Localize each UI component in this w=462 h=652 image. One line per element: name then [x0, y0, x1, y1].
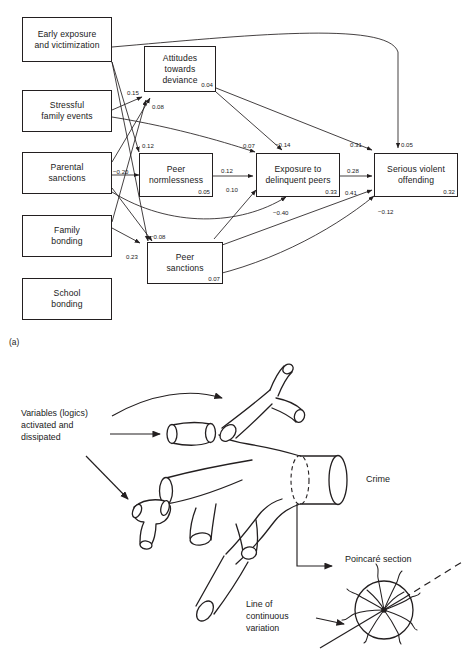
node-serious-violent-offending[interactable]: Serious violentoffending 0.32: [374, 153, 458, 197]
branch-upper-fork: [217, 362, 306, 444]
coef-neg-0-12: −0.12: [378, 208, 393, 215]
annotation-line-of-continuous-variation: Line ofcontinuousvariation: [246, 598, 289, 635]
coef-0-12-mid: 0.12: [221, 167, 233, 174]
annotation-variables: Variables (logics)activated anddissipate…: [21, 407, 88, 444]
detached-tube-upper: [167, 423, 216, 446]
node-label: Parentalsanctions: [46, 162, 87, 184]
coef-0-15: 0.15: [127, 89, 139, 96]
coef-0-07: 0.07: [243, 142, 255, 149]
node-early-exposure[interactable]: Early exposureand victimization: [22, 17, 112, 62]
node-label: Stressfulfamily events: [39, 100, 94, 122]
node-label: Early exposureand victimization: [32, 29, 101, 51]
coef-0-31: 0.31: [350, 141, 362, 148]
node-r2: 0.32: [443, 188, 455, 196]
node-label: Schoolbonding: [49, 288, 84, 310]
node-stressful-family[interactable]: Stressfulfamily events: [22, 90, 112, 132]
annotation-crime: Crime: [366, 473, 390, 485]
node-peer-sanctions[interactable]: Peersanctions 0.07: [147, 242, 223, 284]
branch-mid-stub: [189, 504, 216, 546]
node-r2: 0.07: [208, 275, 220, 283]
coef-neg-0-20: −0.20: [113, 168, 128, 175]
figure-page: Early exposureand victimization Stressfu…: [0, 0, 462, 652]
node-parental-sanctions[interactable]: Parentalsanctions: [22, 152, 112, 194]
path-model-panel: Early exposureand victimization Stressfu…: [0, 0, 462, 360]
coef-neg-0-08: −0.08: [150, 233, 165, 240]
node-school-bonding[interactable]: Schoolbonding: [22, 278, 112, 320]
coef-neg-0-14: −0.14: [275, 141, 290, 148]
node-label: Attitudestowardsdeviance: [160, 53, 199, 86]
coef-0-10: 0.10: [226, 186, 238, 193]
coef-0-23: 0.23: [126, 253, 138, 260]
node-label: Exposure todelinquent peers: [263, 164, 332, 186]
node-r2: 0.33: [325, 188, 337, 196]
node-label: Serious violentoffending: [385, 164, 447, 186]
coef-0-05: 0.05: [401, 141, 413, 148]
node-r2: 0.05: [198, 188, 210, 196]
coef-0-12-left: 0.12: [142, 142, 154, 149]
chaos-diagram-panel: Variables (logics)activated anddissipate…: [0, 352, 462, 652]
node-attitudes-deviance[interactable]: Attitudestowardsdeviance 0.04: [144, 46, 216, 92]
node-label: Familybonding: [49, 225, 84, 247]
detached-tube-lower: [130, 500, 170, 550]
coef-neg-0-40: −0.40: [273, 209, 288, 216]
node-label: Peersanctions: [164, 252, 205, 274]
node-label: Peernormlessness: [147, 164, 205, 186]
node-family-bonding[interactable]: Familybonding: [22, 215, 112, 257]
chaos-illustration: [0, 352, 462, 652]
branch-bottom-long: [193, 556, 248, 624]
node-exposure-delinquent-peers[interactable]: Exposure todelinquent peers 0.33: [256, 153, 340, 197]
annotation-poincare-section: Poincaré section: [345, 553, 412, 565]
coef-0-08: 0.08: [152, 103, 164, 110]
coef-0-41: 0.41: [345, 189, 357, 196]
node-peer-normlessness[interactable]: Peernormlessness 0.05: [139, 153, 213, 197]
node-r2: 0.04: [201, 81, 213, 89]
poincare-section: [342, 564, 420, 644]
coef-0-28: 0.28: [347, 167, 359, 174]
branch-upper-left: [160, 460, 253, 505]
